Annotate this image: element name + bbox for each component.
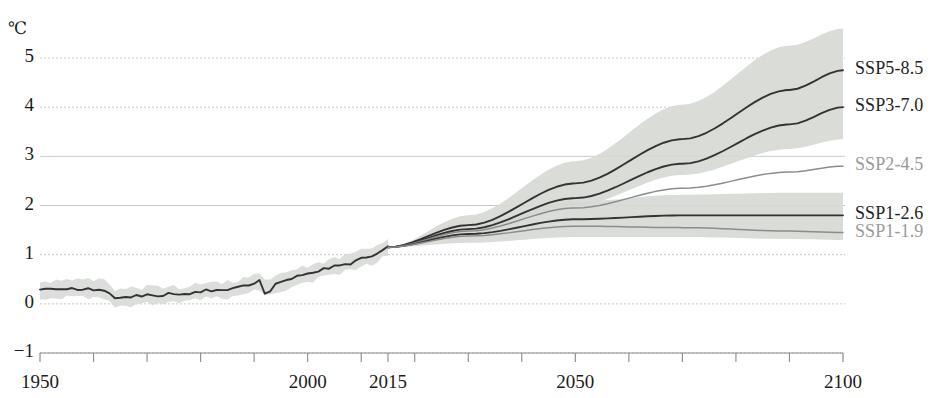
y-tick-label: 4 <box>0 94 34 116</box>
x-tick-label: 2050 <box>535 371 615 393</box>
y-tick-label: 1 <box>0 242 34 264</box>
y-axis-unit-label: ℃ <box>8 18 27 39</box>
temperature-projection-chart: ℃ 543210−1 19502000201520502100 SSP5-8.5… <box>0 0 936 398</box>
y-tick-label: 3 <box>0 143 34 165</box>
x-axis <box>40 353 843 362</box>
x-tick-label: 1950 <box>0 371 80 393</box>
x-tick-label: 2015 <box>348 371 428 393</box>
y-tick-label: 2 <box>0 193 34 215</box>
y-tick-label: −1 <box>0 340 34 362</box>
y-tick-label: 0 <box>0 291 34 313</box>
y-tick-label: 5 <box>0 45 34 67</box>
legend-label-ssp1-1.9: SSP1-1.9 <box>855 221 923 242</box>
chart-canvas <box>0 0 936 398</box>
legend-label-ssp3-7.0: SSP3-7.0 <box>855 95 923 116</box>
uncertainty-band-historical <box>40 239 388 308</box>
x-tick-label: 2000 <box>268 371 348 393</box>
legend-label-ssp5-8.5: SSP5-8.5 <box>855 58 923 79</box>
uncertainty-bands <box>40 29 843 308</box>
x-tick-label: 2100 <box>803 371 883 393</box>
legend-label-ssp2-4.5: SSP2-4.5 <box>855 154 923 175</box>
